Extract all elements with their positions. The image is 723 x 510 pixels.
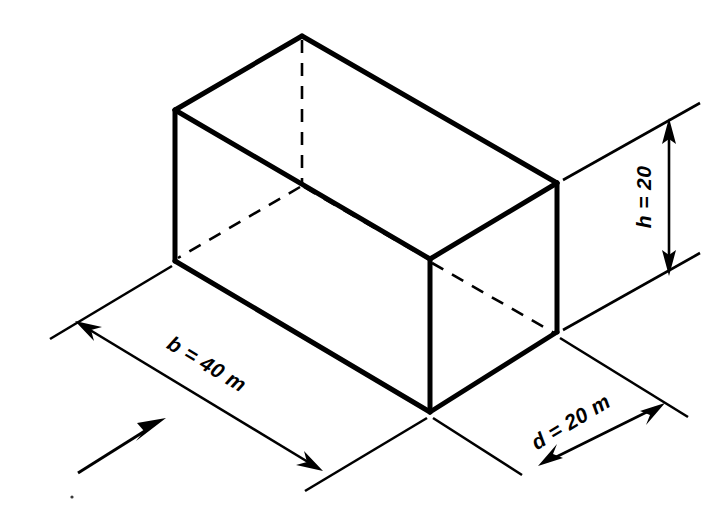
breadth-label-text: b = 40 m (164, 331, 251, 396)
height-extension-line-bottom (563, 253, 700, 330)
flow-direction-arrow-group (78, 418, 166, 473)
height-label-text: h = 20 (632, 166, 655, 229)
depth-dimension-group: d = 20 m (433, 338, 688, 475)
breadth-label: b = 40 m (164, 331, 251, 396)
height-dimension-group: h = 20 (563, 103, 700, 330)
depth-extension-line-near (433, 418, 522, 475)
isometric-block-diagram: h = 20 b = 40 m (0, 0, 723, 510)
breadth-extension-line-near (50, 266, 172, 339)
figure-root: h = 20 b = 40 m (0, 0, 723, 510)
hidden-edge-bottom-right-rear (432, 263, 556, 334)
breadth-arrow-head-left (75, 321, 102, 341)
flow-arrow-head (136, 418, 166, 441)
edge-left-bottom-to-front-bottom (175, 261, 430, 412)
depth-label-text: d = 20 m (527, 389, 614, 454)
edge-top-apex-to-right-top (302, 36, 557, 183)
depth-label: d = 20 m (527, 389, 614, 454)
solid-edges-group (175, 36, 557, 412)
scan-speck (70, 495, 73, 498)
hidden-edges-group (178, 40, 556, 334)
edge-top-apex-to-left-top (175, 36, 302, 110)
breadth-extension-line-far (305, 418, 427, 491)
edge-front-bottom-to-right-bottom (430, 332, 557, 412)
breadth-arrow-head-right (296, 451, 323, 471)
edge-front-middle-to-right-top (430, 183, 557, 259)
flow-arrow-shaft (78, 429, 148, 473)
height-label: h = 20 (632, 166, 655, 229)
hidden-edge-back-to-left (178, 187, 300, 258)
